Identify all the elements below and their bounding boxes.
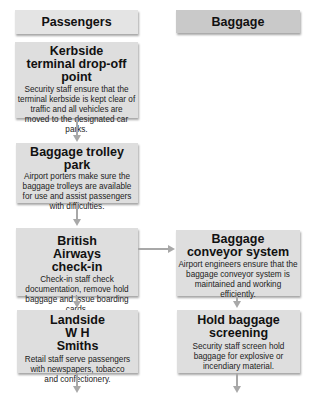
- step-title: Hold baggage screening: [177, 310, 300, 340]
- arrow-down-icon: [73, 301, 81, 308]
- arrow-down-icon: [73, 219, 81, 226]
- step-kerbside-dropoff: Kerbside terminal drop-off point Securit…: [15, 42, 138, 118]
- step-title: British Airways check-in: [16, 228, 138, 274]
- step-title: Baggage conveyor system: [176, 230, 300, 259]
- arrow-down-icon: [73, 135, 81, 142]
- baggage-column-header: Baggage: [176, 10, 300, 33]
- arrow-down-icon: [233, 301, 241, 308]
- arrow-down-icon: [233, 386, 241, 393]
- step-title: Kerbside terminal drop-off point: [15, 42, 138, 84]
- step-title: Baggage trolley park: [16, 143, 138, 172]
- step-description: Security staff screen hold baggage for e…: [177, 340, 300, 372]
- step-hold-baggage-screening: Hold baggage screening Security staff sc…: [177, 310, 300, 373]
- connector-line-to-baggage: [138, 248, 170, 250]
- step-landside-wh-smiths: Landside W H Smiths Retail staff serve p…: [17, 310, 138, 373]
- arrow-down-icon: [73, 386, 81, 393]
- step-title: Landside W H Smiths: [17, 310, 138, 353]
- passengers-column-header: Passengers: [15, 10, 138, 34]
- step-description: Check-in staff check documentation, remo…: [16, 274, 138, 315]
- step-british-airways-checkin: British Airways check-in Check-in staff …: [16, 228, 138, 296]
- step-baggage-conveyor-system: Baggage conveyor system Airport engineer…: [176, 230, 300, 296]
- step-description: Airport engineers ensure that the baggag…: [176, 259, 300, 300]
- step-baggage-trolley-park: Baggage trolley park Airport porters mak…: [16, 143, 138, 203]
- arrow-right-icon: [168, 245, 175, 253]
